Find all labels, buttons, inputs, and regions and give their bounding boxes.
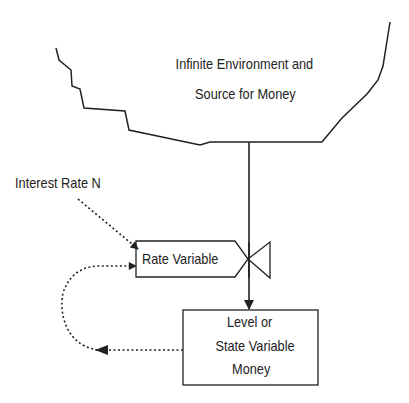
- source-label-line2: Source for Money: [175, 86, 316, 103]
- feedback-loop-arrow: [62, 266, 183, 350]
- environment-boundary: [56, 22, 390, 145]
- source-label-line1: Infinite Environment and: [152, 56, 337, 73]
- feedback-arrowhead-left: [95, 345, 108, 355]
- valve-icon: [248, 242, 270, 278]
- interest-rate-arrow: [78, 199, 138, 249]
- level-label-line3: Money: [216, 361, 286, 378]
- level-label-line2: State Variable: [200, 338, 310, 355]
- rate-variable-label: Rate Variable: [142, 251, 218, 268]
- level-label-line1: Level or: [210, 314, 289, 331]
- interest-rate-label: Interest Rate N: [15, 175, 101, 192]
